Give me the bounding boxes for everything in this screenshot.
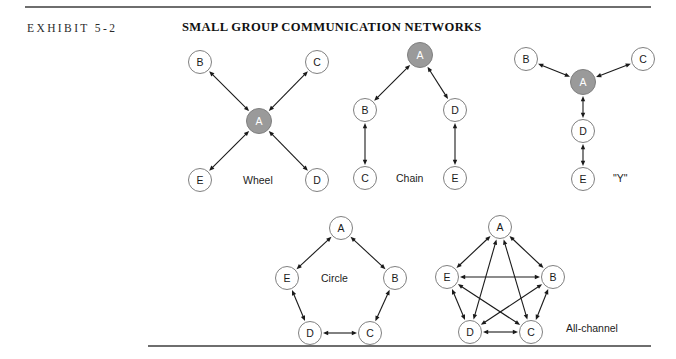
node-label: D bbox=[451, 104, 459, 116]
edge-all-channel-B-C bbox=[536, 289, 549, 320]
communication-networks-diagram: ABCDEABCDEABCDEABCDEABCDE bbox=[0, 0, 676, 359]
node-wheel-D: D bbox=[306, 169, 329, 192]
edge-y-A-B bbox=[538, 64, 570, 77]
network-caption-wheel: Wheel bbox=[243, 174, 273, 186]
node-y-C: C bbox=[632, 48, 655, 71]
edge-circle-E-A bbox=[297, 237, 332, 269]
edge-chain-D-E bbox=[453, 123, 457, 165]
network-caption-chain: Chain bbox=[396, 172, 423, 184]
edge-all-channel-A-E bbox=[456, 236, 490, 268]
edge-y-D-E bbox=[581, 144, 585, 166]
edge-circle-D-E bbox=[292, 290, 305, 321]
node-label: C bbox=[313, 56, 321, 68]
node-y-E: E bbox=[572, 168, 595, 191]
node-label: A bbox=[337, 222, 344, 234]
node-label: A bbox=[496, 221, 503, 233]
node-label: A bbox=[416, 49, 423, 61]
node-chain-C: C bbox=[354, 167, 377, 190]
node-circle-E: E bbox=[276, 267, 299, 290]
node-circle-B: B bbox=[384, 267, 407, 290]
edge-circle-A-B bbox=[351, 237, 386, 269]
node-chain-E: E bbox=[444, 167, 467, 190]
edge-chain-B-C bbox=[363, 123, 367, 165]
node-label: E bbox=[579, 173, 586, 185]
network-caption-circle: Circle bbox=[321, 272, 348, 284]
node-label: C bbox=[366, 327, 374, 339]
edges-layer bbox=[209, 63, 631, 335]
edge-y-A-D bbox=[581, 96, 585, 118]
node-circle-D: D bbox=[299, 322, 322, 345]
edge-all-channel-D-E bbox=[452, 289, 465, 320]
nodes-layer: ABCDEABCDEABCDEABCDEABCDE bbox=[189, 43, 655, 345]
node-label: E bbox=[451, 172, 458, 184]
node-label: B bbox=[196, 56, 203, 68]
node-label: B bbox=[549, 271, 556, 283]
node-y-D: D bbox=[572, 120, 595, 143]
node-all-channel-B: B bbox=[542, 266, 565, 289]
node-circle-A: A bbox=[330, 217, 353, 240]
edge-wheel-A-E bbox=[209, 131, 249, 171]
node-label: B bbox=[391, 272, 398, 284]
network-caption-y: "Y" bbox=[613, 172, 627, 184]
node-label: B bbox=[361, 104, 368, 116]
node-label: D bbox=[313, 174, 321, 186]
node-label: E bbox=[196, 174, 203, 186]
node-chain-B: B bbox=[354, 99, 377, 122]
edge-chain-A-D bbox=[428, 67, 449, 99]
bottom-rule bbox=[148, 345, 651, 347]
node-y-A: A bbox=[571, 70, 596, 95]
node-label: D bbox=[579, 125, 587, 137]
node-all-channel-D: D bbox=[459, 321, 482, 344]
node-label: C bbox=[527, 326, 535, 338]
edge-circle-C-D bbox=[323, 331, 357, 335]
edge-all-channel-C-D bbox=[483, 330, 518, 334]
node-all-channel-E: E bbox=[436, 266, 459, 289]
node-label: D bbox=[466, 326, 474, 338]
exhibit-page: EXHIBIT 5-2 SMALL GROUP COMMUNICATION NE… bbox=[0, 0, 676, 359]
node-label: A bbox=[255, 115, 262, 127]
node-wheel-E: E bbox=[189, 169, 212, 192]
node-label: B bbox=[522, 53, 529, 65]
edge-chain-A-B bbox=[374, 65, 410, 101]
node-circle-C: C bbox=[359, 322, 382, 345]
edge-wheel-A-D bbox=[269, 131, 308, 171]
node-label: C bbox=[361, 172, 369, 184]
node-chain-D: D bbox=[444, 99, 467, 122]
network-caption-all-channel: All-channel bbox=[566, 322, 618, 334]
node-label: C bbox=[639, 53, 647, 65]
node-wheel-B: B bbox=[189, 51, 212, 74]
node-label: A bbox=[579, 76, 586, 88]
node-label: E bbox=[443, 271, 450, 283]
edge-all-channel-A-B bbox=[509, 236, 543, 268]
node-wheel-C: C bbox=[306, 51, 329, 74]
edge-wheel-A-B bbox=[209, 71, 249, 111]
node-label: D bbox=[306, 327, 314, 339]
edge-y-A-C bbox=[596, 63, 631, 77]
edge-all-channel-B-E bbox=[460, 275, 540, 279]
node-all-channel-C: C bbox=[520, 321, 543, 344]
node-y-B: B bbox=[515, 48, 538, 71]
node-all-channel-A: A bbox=[489, 216, 512, 239]
edge-circle-B-C bbox=[375, 290, 389, 321]
node-label: E bbox=[283, 272, 290, 284]
edge-wheel-A-C bbox=[269, 71, 308, 111]
node-chain-A: A bbox=[408, 43, 433, 68]
node-wheel-A: A bbox=[247, 109, 272, 134]
